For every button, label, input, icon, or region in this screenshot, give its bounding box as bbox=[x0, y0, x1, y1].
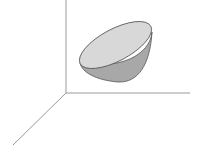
y-axis bbox=[13, 93, 66, 145]
hemisphere-diagram bbox=[0, 0, 199, 151]
hemisphere-bowl bbox=[73, 12, 159, 82]
diagram-canvas bbox=[0, 0, 199, 151]
